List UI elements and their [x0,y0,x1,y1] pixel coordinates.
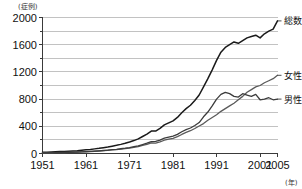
x-tick-label: 1971 [117,159,141,171]
x-tick-label: 1991 [204,159,228,171]
x-tick-label: 1981 [161,159,185,171]
legend-label-男性: 男性 [284,94,302,105]
series-line-1 [43,75,278,153]
series-line-2 [43,92,278,153]
y-tick-label: 2000 [13,12,37,24]
legend-label-女性: 女性 [284,70,302,81]
x-tick-label: 1951 [30,159,54,171]
legend-label-総数: 総数 [284,15,302,26]
line-chart: 0400800120016002000195119611971198119912… [0,0,302,189]
y-tick-label: 1600 [13,39,37,51]
y-tick-label: 800 [19,93,37,105]
series-line-0 [43,21,278,152]
x-tick-label: 2005 [265,159,289,171]
y-axis-unit-label: (症例) [18,2,38,11]
x-axis-unit-label: (年) [285,178,298,187]
y-tick-label: 400 [19,120,37,132]
chart-canvas: 0400800120016002000195119611971198119912… [0,0,302,189]
x-tick-label: 1961 [74,159,98,171]
y-tick-label: 1200 [13,66,37,78]
